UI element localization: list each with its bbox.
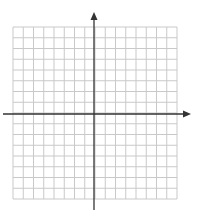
y-axis-arrow-icon [91, 12, 98, 20]
grid-lines [13, 27, 177, 199]
axes [3, 12, 191, 210]
coordinate-plane [0, 0, 199, 220]
coordinate-grid-svg [0, 0, 199, 220]
x-axis-arrow-icon [183, 111, 191, 118]
